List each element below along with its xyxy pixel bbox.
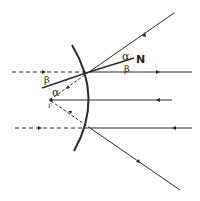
arrow-focus-upper-icon [66, 85, 70, 89]
reflected-ray-lower [90, 128, 180, 190]
mirror-ray-diagram: α β N β α F [0, 0, 200, 201]
dashed-from-focus-lower [51, 101, 90, 128]
label-alpha-upper: α [122, 50, 130, 63]
label-focus: F [48, 102, 52, 109]
arrow-bottom-right-icon [172, 126, 176, 130]
convex-mirror-arc [72, 45, 89, 151]
label-alpha-left: α [52, 86, 60, 99]
label-beta-left: β [44, 74, 50, 85]
arrow-bottom-left-icon [38, 126, 42, 130]
arrow-middle-icon [156, 98, 160, 102]
label-normal: N [136, 53, 145, 66]
arrow-top-right-icon [156, 70, 160, 74]
reflected-ray-upper [89, 13, 174, 72]
label-beta-upper: β [124, 63, 130, 74]
